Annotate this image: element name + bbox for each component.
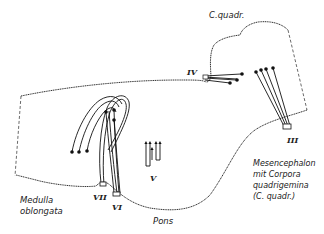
brainstem-diagram: C.quadr. Medulla oblongata Pons Mesencep…: [0, 0, 324, 234]
nerve-vii-fibers: [70, 96, 129, 186]
label-nerve-iii: III: [286, 135, 298, 145]
label-nerve-vii: VII: [93, 192, 107, 202]
label-medulla-1: Medulla: [20, 195, 53, 205]
label-mesencephalon-1: Mesencephalon: [253, 159, 316, 168]
label-mesencephalon-2: mit Corpora: [253, 170, 301, 179]
label-mesencephalon-3: quadrigemina: [253, 181, 309, 190]
nerve-iv-fibers: [203, 72, 244, 85]
label-pons: Pons: [153, 216, 174, 226]
label-c-quadr: C.quadr.: [209, 10, 244, 20]
nucleus-dot: [85, 149, 89, 153]
label-nerve-v: V: [150, 173, 157, 183]
nerve-iii-fibers: [254, 66, 291, 129]
nucleus-dot: [70, 150, 74, 154]
nerve-vi-fibers: [104, 108, 120, 196]
label-mesencephalon-4: (C. quadr.): [253, 192, 295, 201]
label-nerve-vi: VI: [112, 202, 122, 212]
label-medulla-2: oblongata: [20, 206, 63, 216]
nerve-v-fibers: [144, 141, 161, 166]
nucleus-dot: [77, 150, 81, 154]
label-nerve-iv: IV: [186, 67, 198, 77]
